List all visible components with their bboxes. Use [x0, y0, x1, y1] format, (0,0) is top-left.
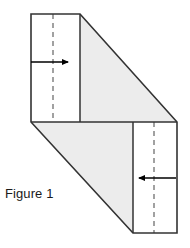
upper-panel-face — [31, 14, 80, 122]
figure-diagram: Figure 1 — [0, 0, 190, 248]
figure-caption: Figure 1 — [5, 186, 54, 201]
figure-canvas: Figure 1 — [0, 0, 190, 248]
